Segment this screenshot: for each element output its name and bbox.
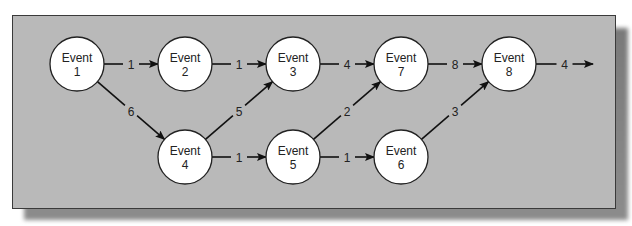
edge-weight-label: 2 [344,105,351,119]
event-node-6: Event6 [374,130,428,184]
event-node-number: 6 [398,158,405,172]
edge-weight-label: 3 [452,105,459,119]
edge-7-to-8: 8 [428,58,482,72]
edge-3-to-7: 4 [320,58,374,72]
event-node-8: Event8 [482,37,536,91]
event-node-title: Event [494,51,525,65]
edge-line-segment [205,116,232,140]
nodes-layer: Event1Event2Event3Event4Event5Event6Even… [50,37,536,184]
edge-line-segment [313,116,340,140]
edge-line-segment [97,82,124,106]
event-node-number: 4 [182,158,189,172]
edge-6-to-8: 3 [421,82,488,140]
network-diagram: 16151421834 Event1Event2Event3Event4Even… [0,0,632,226]
event-node-4: Event4 [158,130,212,184]
event-node-number: 1 [74,65,81,79]
edge-weight-label: 4 [344,58,351,72]
event-node-number: 7 [398,65,405,79]
edge-weight-label: 1 [236,58,243,72]
edge-weight-label: 1 [236,151,243,165]
edge-5-to-6: 1 [320,151,374,165]
event-node-number: 3 [290,65,297,79]
edge-1-to-4: 6 [97,82,164,140]
edge-line-segment [421,116,448,140]
event-node-5: Event5 [266,130,320,184]
edge-8-to-out: 4 [536,58,593,72]
event-node-7: Event7 [374,37,428,91]
edge-weight-label: 1 [344,151,351,165]
edge-weight-label: 6 [128,105,135,119]
edge-1-to-2: 1 [104,58,158,72]
edge-4-to-3: 5 [205,82,272,140]
edge-weight-label: 8 [452,58,459,72]
event-node-title: Event [278,51,309,65]
edge-arrow-segment [461,82,488,106]
edge-2-to-3: 1 [212,58,266,72]
edge-5-to-7: 2 [313,82,380,140]
event-node-title: Event [62,51,93,65]
event-node-1: Event1 [50,37,104,91]
edge-arrow-segment [137,116,164,140]
event-node-number: 2 [182,65,189,79]
event-node-2: Event2 [158,37,212,91]
event-node-3: Event3 [266,37,320,91]
edge-arrow-segment [245,82,272,106]
event-node-title: Event [386,51,417,65]
edge-weight-label: 5 [236,105,243,119]
edge-4-to-5: 1 [212,151,266,165]
event-node-title: Event [170,144,201,158]
edge-weight-label: 1 [128,58,135,72]
event-node-number: 5 [290,158,297,172]
event-node-number: 8 [506,65,513,79]
event-node-title: Event [278,144,309,158]
event-node-title: Event [386,144,417,158]
edge-arrow-segment [353,82,380,106]
edge-weight-label: 4 [561,58,568,72]
event-node-title: Event [170,51,201,65]
